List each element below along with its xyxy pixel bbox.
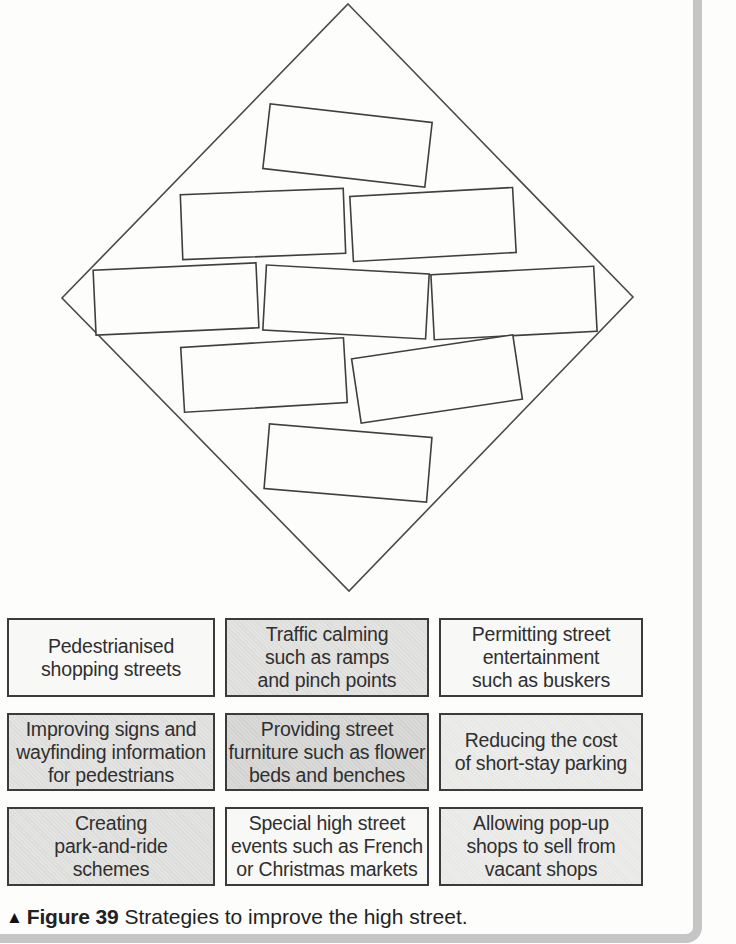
caption-triangle-icon: ▲ (6, 908, 23, 927)
strategy-label: Creating park-and-ride schemes (54, 812, 167, 881)
strategy-box-signs-wayfinding: Improving signs and wayfinding informati… (7, 713, 215, 791)
strategy-label: Permitting street entertainment such as … (472, 623, 611, 692)
strategy-label: Improving signs and wayfinding informati… (16, 718, 206, 787)
strategy-box-street-entertainment: Permitting street entertainment such as … (439, 618, 643, 697)
ranking-slot-9 (264, 424, 432, 502)
ranking-slot-6 (431, 266, 597, 339)
strategy-box-short-stay-parking: Reducing the cost of short-stay parking (439, 713, 643, 791)
strategy-label: Allowing pop-up shops to sell from vacan… (466, 812, 615, 881)
ranking-slot-8 (352, 335, 523, 423)
ranking-slot-4 (93, 263, 259, 335)
ranking-slot-7 (181, 338, 348, 413)
strategy-box-pop-up-shops: Allowing pop-up shops to sell from vacan… (439, 807, 643, 886)
caption-figure-label: Figure 39 (27, 905, 119, 928)
strategy-box-park-and-ride: Creating park-and-ride schemes (7, 807, 215, 886)
ranking-slot-5 (263, 265, 429, 339)
strategy-box-traffic-calming: Traffic calming such as ramps and pinch … (225, 618, 429, 697)
ranking-slot-2 (180, 188, 345, 259)
strategy-label: Providing street furniture such as flowe… (229, 718, 426, 787)
strategy-box-street-furniture: Providing street furniture such as flowe… (225, 713, 429, 791)
strategy-grid: Pedestrianised shopping streets Traffic … (7, 618, 643, 886)
figure-caption: ▲Figure 39Strategies to improve the high… (6, 904, 656, 932)
diamond-diagram (0, 0, 736, 600)
ranking-slot-3 (350, 188, 516, 262)
ranking-slot-1 (263, 104, 432, 187)
textbook-figure-page: { "figure": { "marker": "\u25B2", "label… (0, 0, 736, 944)
strategy-label: Reducing the cost of short-stay parking (455, 729, 627, 775)
diamond-nine-template (0, 0, 736, 600)
strategy-box-special-events: Special high street events such as Frenc… (225, 807, 429, 886)
strategy-box-pedestrianised-streets: Pedestrianised shopping streets (7, 618, 215, 697)
strategy-label: Traffic calming such as ramps and pinch … (258, 623, 397, 692)
strategy-label: Special high street events such as Frenc… (231, 812, 423, 881)
caption-text: Strategies to improve the high street. (124, 905, 467, 928)
strategy-label: Pedestrianised shopping streets (41, 635, 181, 681)
